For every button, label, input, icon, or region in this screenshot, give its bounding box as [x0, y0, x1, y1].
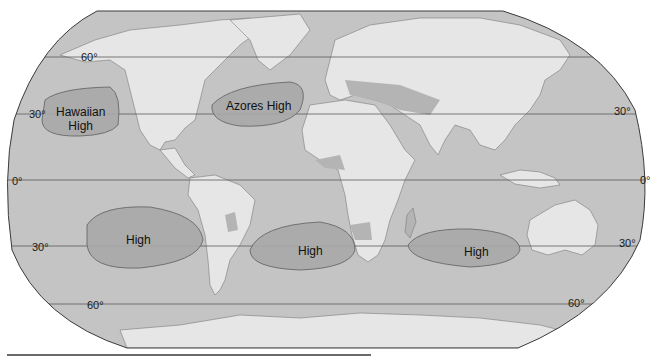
hawaiian-high-line2: High [56, 119, 105, 133]
south-atlantic-high-label: High [298, 244, 323, 258]
lat-label-30n-left: 30° [29, 109, 46, 120]
lat-label-30s-left: 30° [32, 242, 49, 253]
indian-ocean-high-label: High [464, 245, 489, 259]
azores-high-label: Azores High [226, 99, 291, 113]
hawaiian-high-label: Hawaiian High [56, 105, 105, 133]
lat-label-eq-left: 0° [12, 176, 23, 187]
lat-label-eq-right: 0° [640, 175, 651, 186]
lat-label-60s-right: 60° [568, 298, 585, 309]
lat-label-60s-left: 60° [87, 300, 104, 311]
south-pacific-high-label: High [126, 233, 151, 247]
lat-label-30n-right: 30° [614, 106, 631, 117]
lat-label-30s-right: 30° [619, 238, 636, 249]
hawaiian-high-line1: Hawaiian [56, 105, 105, 119]
lat-label-60n: 60° [81, 52, 98, 63]
bottom-rule [7, 354, 371, 356]
